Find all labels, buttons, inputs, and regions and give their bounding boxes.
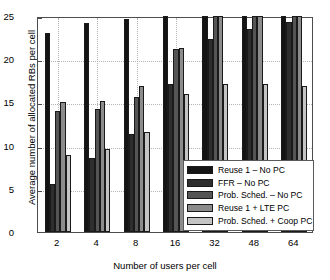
x-tick-label: 2 xyxy=(37,237,77,248)
x-tick-label: 16 xyxy=(155,237,195,248)
legend-label: Reuse 1 – No PC xyxy=(218,165,285,175)
legend: Reuse 1 – No PCFFR – No PCProb. Sched. –… xyxy=(183,160,314,231)
figure: Average number of allocated RBs per cell… xyxy=(0,0,330,280)
y-tick-mark xyxy=(38,148,42,149)
legend-label: Prob. Sched. + Coop PC xyxy=(218,216,312,226)
legend-swatch-icon xyxy=(187,204,213,212)
legend-item[interactable]: Prob. Sched. – No PC xyxy=(187,189,310,202)
x-tick-label: 4 xyxy=(76,237,116,248)
y-tick-mark xyxy=(38,191,42,192)
y-tick-mark xyxy=(38,104,42,105)
x-tick-label: 48 xyxy=(234,237,274,248)
y-tick-label: 10 xyxy=(0,141,14,152)
x-tick-label: 32 xyxy=(194,237,234,248)
legend-swatch-icon xyxy=(187,166,213,174)
y-tick-mark xyxy=(38,61,42,62)
legend-item[interactable]: Reuse 1 + LTE PC xyxy=(187,202,310,215)
legend-swatch-icon xyxy=(187,191,213,199)
x-tick-label: 8 xyxy=(116,237,156,248)
legend-swatch-icon xyxy=(187,217,213,225)
y-tick-label: 5 xyxy=(0,184,14,195)
legend-label: FFR – No PC xyxy=(218,178,270,188)
bar xyxy=(66,155,71,232)
legend-item[interactable]: Reuse 1 – No PC xyxy=(187,164,310,177)
y-tick-mark xyxy=(38,18,42,19)
legend-swatch-icon xyxy=(187,179,213,187)
bar xyxy=(105,149,110,232)
x-axis-label: Number of users per cell xyxy=(0,260,330,271)
legend-label: Prob. Sched. – No PC xyxy=(218,190,303,200)
legend-item[interactable]: FFR – No PC xyxy=(187,177,310,190)
legend-label: Reuse 1 + LTE PC xyxy=(218,203,289,213)
y-tick-label: 25 xyxy=(0,11,14,22)
y-tick-label: 15 xyxy=(0,97,14,108)
y-tick-label: 20 xyxy=(0,54,14,65)
legend-item[interactable]: Prob. Sched. + Coop PC xyxy=(187,214,310,227)
x-tick-label: 64 xyxy=(273,237,313,248)
bar xyxy=(144,132,149,232)
y-tick-label: 0 xyxy=(0,227,14,238)
y-axis-label: Average number of allocated RBs per cell xyxy=(26,13,37,223)
